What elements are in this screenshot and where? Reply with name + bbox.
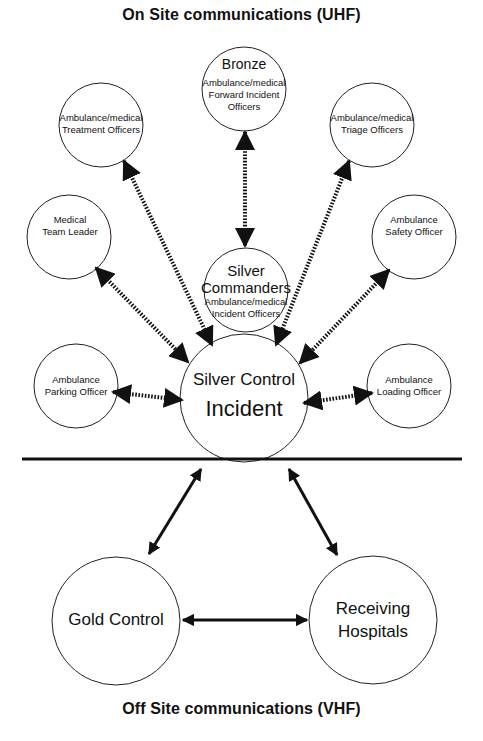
silver-control-to-gold-control-link — [149, 469, 201, 554]
silver-control-node: Silver Control Incident — [184, 370, 304, 422]
on-site-title: On Site communications (UHF) — [0, 6, 483, 24]
bronze-line-3: Officers — [228, 101, 261, 113]
receiving-hospitals-line-1: Receiving — [336, 597, 411, 620]
safety-line-1: Ambulance — [390, 214, 438, 226]
treatment-officers-node: Ambulance/medical Treatment Officers — [56, 112, 146, 136]
loading-line-2: Loading Officer — [377, 386, 441, 398]
silver-commanders-line-2: Incident Officers — [212, 308, 280, 320]
parking-officer-node: Ambulance Parking Officer — [34, 374, 118, 398]
bronze-node: Bronze Ambulance/medical Forward Inciden… — [202, 56, 286, 113]
medical-team-leader-to-silver-control-link — [96, 268, 188, 362]
silver-commanders-line-1: Ambulance/medical — [205, 296, 288, 308]
safety-officer-node: Ambulance Safety Officer — [372, 214, 456, 238]
triage-line-2: Triage Officers — [341, 124, 403, 136]
silver-control-line-1: Silver Control — [193, 370, 295, 390]
triage-officers-node: Ambulance/medical Triage Officers — [327, 112, 417, 136]
parking-to-silver-control-link — [113, 392, 182, 400]
gold-control-node: Gold Control — [56, 610, 176, 630]
receiving-hospitals-line-2: Hospitals — [338, 620, 408, 643]
safety-line-2: Safety Officer — [385, 226, 442, 238]
bronze-line-2: Forward Incident — [209, 89, 280, 101]
silver-control-line-2: Incident — [205, 396, 282, 422]
silver-commanders-heading-1: Silver — [227, 262, 265, 279]
bronze-heading: Bronze — [222, 56, 266, 73]
receiving-hospitals-node: Receiving Hospitals — [313, 597, 433, 643]
loading-to-silver-control-link — [304, 393, 372, 403]
loading-officer-node: Ambulance Loading Officer — [367, 374, 451, 398]
bronze-line-1: Ambulance/medical — [203, 77, 286, 89]
medical-team-leader-line-2: Team Leader — [42, 226, 97, 238]
gold-control-label: Gold Control — [68, 610, 163, 630]
silver-commanders-node: Silver Commanders Ambulance/medical Inci… — [202, 262, 290, 320]
treatment-to-silver-control-link — [124, 161, 212, 345]
treatment-line-1: Ambulance/medical — [60, 112, 143, 124]
safety-to-silver-control-link — [300, 270, 389, 363]
triage-line-1: Ambulance/medical — [331, 112, 414, 124]
silver-control-to-hospitals-link — [289, 469, 337, 555]
treatment-line-2: Treatment Officers — [62, 124, 140, 136]
medical-team-leader-line-1: Medical — [54, 214, 87, 226]
silver-commanders-heading-2: Commanders — [201, 279, 291, 296]
medical-team-leader-node: Medical Team Leader — [28, 214, 112, 238]
parking-line-1: Ambulance — [52, 374, 100, 386]
off-site-title: Off Site communications (VHF) — [0, 700, 483, 718]
loading-line-1: Ambulance — [385, 374, 433, 386]
parking-line-2: Parking Officer — [45, 386, 108, 398]
